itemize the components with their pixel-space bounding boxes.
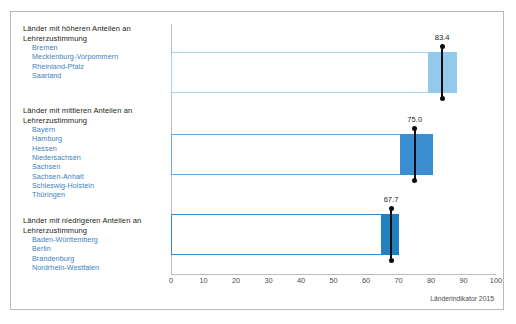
x-tick-label: 30 — [264, 276, 272, 285]
bar — [171, 52, 442, 93]
x-tick-label: 80 — [427, 276, 435, 285]
category-group-title: Länder mit höheren Anteilen an Lehrerzus… — [23, 24, 173, 43]
error-bar-cap-bottom — [440, 96, 445, 101]
x-tick-label: 50 — [329, 276, 337, 285]
source-note: Länderindikator 2015 — [430, 295, 494, 302]
error-bar-cap-bottom — [412, 178, 417, 183]
list-item: Baden-Württemberg — [32, 235, 173, 244]
x-tick-label: 100 — [490, 276, 502, 285]
list-item: Hessen — [32, 144, 173, 153]
category-group-title: Länder mit mittleren Anteilen an Lehrerz… — [23, 106, 173, 125]
x-axis-tick-labels: 0102030405060708090100 — [171, 276, 501, 288]
list-item: Thüringen — [32, 190, 173, 199]
bar-group: 75.0 — [171, 134, 496, 175]
list-item: Hamburg — [32, 134, 173, 143]
list-item: Brandenburg — [32, 254, 173, 263]
x-tick-label: 70 — [394, 276, 402, 285]
chart-figure-frame: Länder mit höheren Anteilen an Lehrerzus… — [10, 11, 504, 310]
list-item: Saarland — [32, 71, 173, 80]
list-item: Niedersachsen — [32, 153, 173, 162]
list-item: Mecklenburg-Vorpommern — [32, 52, 173, 61]
data-value-label: 67.7 — [384, 195, 399, 204]
category-group-1: Länder mit mittleren Anteilen an Lehrerz… — [23, 106, 173, 200]
x-tick-label: 20 — [232, 276, 240, 285]
list-item: Schleswig-Holstein — [32, 181, 173, 190]
list-item: Berlin — [32, 244, 173, 253]
bar-group: 67.7 — [171, 214, 496, 255]
data-value-label: 75.0 — [407, 115, 422, 124]
list-item: Sachsen-Anhalt — [32, 172, 173, 181]
bar-group: 83.4 — [171, 52, 496, 93]
x-tick-label: 40 — [297, 276, 305, 285]
confidence-interval-box — [400, 134, 433, 175]
data-value-label: 83.4 — [435, 33, 450, 42]
list-item: Nordrhein-Westfalen — [32, 263, 173, 272]
plot-area: 83.475.067.7 — [171, 24, 496, 275]
bar — [171, 134, 415, 175]
list-item: Bayern — [32, 125, 173, 134]
x-tick-label: 90 — [459, 276, 467, 285]
error-bar-cap-top — [412, 126, 417, 131]
error-bar-cap-bottom — [389, 258, 394, 263]
list-item: Bremen — [32, 43, 173, 52]
category-group-state-list: Bremen Mecklenburg-Vorpommern Rheinland-… — [23, 43, 173, 80]
category-group-2: Länder mit niedrigeren Anteilen an Lehre… — [23, 216, 173, 272]
error-bar-cap-top — [389, 206, 394, 211]
category-group-state-list: Bayern Hamburg Hessen Niedersachsen Sach… — [23, 125, 173, 199]
x-axis-line — [171, 274, 496, 275]
x-tick-label: 60 — [362, 276, 370, 285]
list-item: Sachsen — [32, 162, 173, 171]
x-tick-label: 0 — [169, 276, 173, 285]
list-item: Rheinland-Pfalz — [32, 62, 173, 71]
category-label-column: Länder mit höheren Anteilen an Lehrerzus… — [23, 24, 173, 286]
error-bar-line — [390, 208, 392, 261]
category-group-0: Länder mit höheren Anteilen an Lehrerzus… — [23, 24, 173, 80]
error-bar-cap-top — [440, 44, 445, 49]
error-bar-line — [441, 46, 443, 99]
error-bar-line — [414, 128, 416, 181]
category-group-state-list: Baden-Württemberg Berlin Brandenburg Nor… — [23, 235, 173, 272]
x-tick-label: 10 — [199, 276, 207, 285]
bar — [171, 214, 391, 255]
category-group-title: Länder mit niedrigeren Anteilen an Lehre… — [23, 216, 173, 235]
